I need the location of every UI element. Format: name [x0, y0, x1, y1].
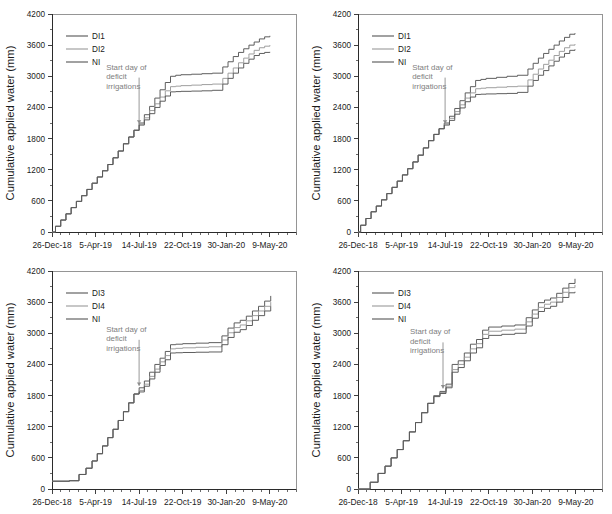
x-tick-label: 14-Jul-19	[428, 240, 463, 250]
plot-frame	[52, 271, 296, 489]
annotation-text-line-2: deficit	[106, 334, 127, 343]
x-tick-label: 9-May-20	[558, 497, 594, 507]
y-tick-label: 2400	[333, 103, 352, 112]
legend-label-NI: NI	[398, 315, 406, 324]
legend-label-DI2: DI2	[398, 45, 411, 54]
annotation-text-line-1: Start day of	[106, 63, 147, 72]
legend-label-NI: NI	[92, 58, 100, 67]
series-line-DI3	[52, 296, 271, 481]
y-tick-label: 1200	[27, 166, 46, 175]
y-tick-label: 1800	[27, 392, 46, 401]
x-tick-label: 14-Jul-19	[122, 497, 157, 507]
x-tick-label: 9-May-20	[252, 497, 288, 507]
y-tick-label: 600	[337, 197, 351, 206]
x-tick-label: 5-Apr-19	[385, 497, 418, 507]
x-tick-label: 30-Jan-20	[207, 497, 245, 507]
x-tick-label: 26-Dec-18	[32, 240, 71, 250]
legend-label-DI1: DI1	[398, 32, 411, 41]
x-tick-label: 5-Apr-19	[79, 240, 112, 250]
x-tick-label: 14-Jul-19	[428, 497, 463, 507]
y-tick-label: 3000	[333, 329, 352, 338]
y-tick-label: 0	[346, 485, 351, 494]
x-tick-label: 22-Oct-19	[470, 240, 508, 250]
annotation-text-line-1: Start day of	[106, 325, 147, 334]
legend-label-NI: NI	[92, 315, 100, 324]
legend-label-DI4: DI4	[398, 302, 411, 311]
y-tick-label: 3600	[333, 41, 352, 50]
chart-panel-top-left: 060012001800240030003600420026-Dec-185-A…	[0, 0, 306, 257]
y-tick-label: 4200	[333, 267, 352, 276]
y-axis-title: Cumulative applied water (mm)	[310, 45, 322, 200]
y-axis-title: Cumulative applied water (mm)	[4, 302, 16, 457]
x-tick-label: 9-May-20	[558, 240, 594, 250]
annotation-text-line-3: irrigations	[412, 82, 446, 91]
y-tick-label: 1800	[27, 135, 46, 144]
y-tick-label: 0	[40, 228, 45, 237]
series-line-DI3	[358, 279, 575, 489]
y-tick-label: 1200	[333, 423, 352, 432]
x-tick-label: 26-Dec-18	[32, 497, 71, 507]
annotation-text-line-2: deficit	[412, 72, 433, 81]
x-tick-label: 30-Jan-20	[513, 240, 551, 250]
y-tick-label: 3000	[333, 72, 352, 81]
series-line-NI	[52, 306, 271, 481]
y-tick-label: 3600	[27, 41, 46, 50]
annotation-arrow-head	[137, 382, 141, 385]
x-tick-label: 26-Dec-18	[338, 497, 377, 507]
x-tick-label: 5-Apr-19	[385, 240, 418, 250]
series-line-NI	[358, 292, 575, 489]
series-line-DI1	[358, 33, 575, 232]
x-tick-label: 26-Dec-18	[338, 240, 377, 250]
series-line-DI4	[52, 302, 271, 481]
annotation-text-line-2: deficit	[410, 337, 431, 346]
annotation-arrow-head	[441, 385, 445, 388]
figure-container: 060012001800240030003600420026-Dec-185-A…	[0, 0, 612, 514]
y-tick-label: 2400	[27, 360, 46, 369]
annotation-text-line-1: Start day of	[410, 327, 451, 336]
y-tick-label: 3600	[333, 298, 352, 307]
x-tick-label: 22-Oct-19	[470, 497, 508, 507]
plot-frame	[358, 271, 602, 489]
chart-panel-top-right: 060012001800240030003600420026-Dec-185-A…	[306, 0, 612, 257]
y-tick-label: 1200	[333, 166, 352, 175]
annotation-text-line-3: irrigations	[106, 82, 140, 91]
x-tick-label: 22-Oct-19	[164, 497, 202, 507]
y-tick-label: 0	[40, 485, 45, 494]
y-tick-label: 3600	[27, 298, 46, 307]
y-tick-label: 2400	[333, 360, 352, 369]
chart-panel-bottom-right: 060012001800240030003600420026-Dec-185-A…	[306, 257, 612, 514]
annotation-text-line-1: Start day of	[412, 63, 453, 72]
y-tick-label: 3000	[27, 329, 46, 338]
y-tick-label: 4200	[27, 267, 46, 276]
series-line-NI	[358, 49, 575, 232]
y-tick-label: 4200	[27, 10, 46, 19]
series-line-DI4	[358, 285, 575, 489]
legend-label-DI3: DI3	[92, 289, 105, 298]
series-line-NI	[52, 52, 270, 232]
plot-frame	[52, 14, 296, 232]
legend-label-DI4: DI4	[92, 302, 105, 311]
legend-label-DI1: DI1	[92, 32, 105, 41]
x-tick-label: 9-May-20	[252, 240, 288, 250]
y-axis-title: Cumulative applied water (mm)	[310, 302, 322, 457]
y-axis-title: Cumulative applied water (mm)	[4, 45, 16, 200]
x-tick-label: 30-Jan-20	[207, 240, 245, 250]
y-tick-label: 1800	[333, 135, 352, 144]
x-tick-label: 22-Oct-19	[164, 240, 202, 250]
y-tick-label: 0	[346, 228, 351, 237]
series-line-DI1	[52, 36, 270, 232]
y-tick-label: 600	[31, 197, 45, 206]
series-line-DI2	[358, 44, 575, 232]
legend-label-DI3: DI3	[398, 289, 411, 298]
legend-label-DI2: DI2	[92, 45, 105, 54]
y-tick-label: 2400	[27, 103, 46, 112]
chart-panel-bottom-left: 060012001800240030003600420026-Dec-185-A…	[0, 257, 306, 514]
y-tick-label: 4200	[333, 10, 352, 19]
annotation-text-line-3: irrigations	[410, 346, 444, 355]
plot-frame	[358, 14, 602, 232]
annotation-text-line-3: irrigations	[106, 344, 140, 353]
y-tick-label: 1200	[27, 423, 46, 432]
y-tick-label: 3000	[27, 72, 46, 81]
annotation-text-line-2: deficit	[106, 72, 127, 81]
x-tick-label: 5-Apr-19	[79, 497, 112, 507]
